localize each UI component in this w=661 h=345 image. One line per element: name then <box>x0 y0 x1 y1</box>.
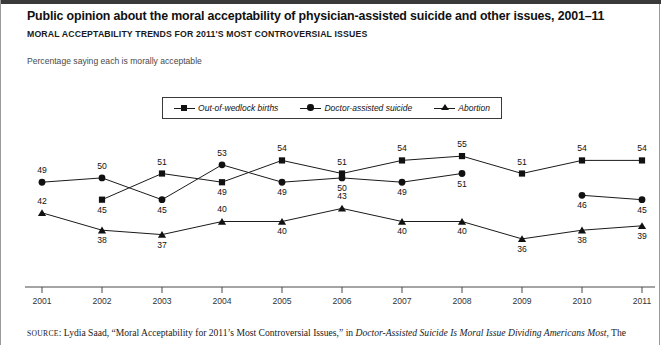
data-point-label: 45 <box>637 205 647 215</box>
data-point-label: 54 <box>577 143 587 153</box>
legend-label: Out-of-wedlock births <box>198 103 278 113</box>
data-point-label: 46 <box>577 200 587 210</box>
data-point-label: 50 <box>97 161 107 171</box>
x-axis-tick-label: 2003 <box>152 296 171 306</box>
data-point-label: 54 <box>277 143 287 153</box>
data-point-label: 39 <box>637 231 647 241</box>
x-axis-tick-label: 2001 <box>32 296 51 306</box>
data-point-label: 37 <box>157 240 167 250</box>
legend-item-abortion[interactable]: Abortion <box>434 103 490 113</box>
chart-blurb: Percentage saying each is morally accept… <box>27 56 637 66</box>
page-title: Public opinion about the moral acceptabi… <box>27 9 637 23</box>
source-text-before: Lydia Saad, “Moral Acceptability for 201… <box>64 327 356 338</box>
data-point-label: 51 <box>517 157 527 167</box>
chart-plot-area: 4551495451545551545449504553495049514645… <box>1 0 661 345</box>
data-point-label: 49 <box>397 187 407 197</box>
source-text-after: , The <box>606 327 626 338</box>
data-point-label: 36 <box>517 244 527 254</box>
data-point-label: 40 <box>457 226 467 236</box>
data-point-label: 45 <box>97 205 107 215</box>
top-rule <box>1 0 661 4</box>
x-axis-tick-label: 2006 <box>332 296 351 306</box>
series-out-of-wedlock-births <box>99 153 645 203</box>
data-point-label: 49 <box>217 187 227 197</box>
data-point-label: 49 <box>37 165 47 175</box>
data-point-label: 54 <box>637 143 647 153</box>
legend-item-doctor-assisted-suicide[interactable]: Doctor-assisted suicide <box>300 103 412 113</box>
chart-canvas <box>1 0 661 345</box>
source-italic-title: Doctor-Assisted Suicide Is Moral Issue D… <box>356 327 607 338</box>
data-point-label: 51 <box>157 157 167 167</box>
x-axis-tick-label: 2010 <box>572 296 591 306</box>
legend-label: Abortion <box>458 103 490 113</box>
data-point-label: 38 <box>577 235 587 245</box>
legend-item-out-of-wedlock-births[interactable]: Out-of-wedlock births <box>174 103 278 113</box>
legend-label: Doctor-assisted suicide <box>324 103 412 113</box>
data-point-label: 50 <box>337 183 347 193</box>
data-point-label: 51 <box>337 157 347 167</box>
x-axis-tick-label: 2005 <box>272 296 291 306</box>
data-point-label: 49 <box>277 187 287 197</box>
series-abortion <box>38 205 646 242</box>
chart-subtitle: MORAL ACCEPTABILITY TRENDS FOR 2011'S MO… <box>27 29 607 39</box>
data-point-label: 40 <box>277 226 287 236</box>
series-doctor-assisted-suicide <box>39 161 646 203</box>
x-axis-tick-label: 2009 <box>512 296 531 306</box>
x-axis-tick-label: 2011 <box>633 296 651 306</box>
data-point-label: 42 <box>37 196 47 206</box>
x-axis-tick-label: 2007 <box>392 296 411 306</box>
data-point-label: 53 <box>217 148 227 158</box>
x-axis <box>25 287 655 293</box>
x-axis-tick-label: 2004 <box>212 296 231 306</box>
data-point-label: 40 <box>217 204 227 214</box>
data-point-label: 51 <box>457 179 467 189</box>
data-point-label: 38 <box>97 235 107 245</box>
legend-marker-circle-icon <box>300 104 321 113</box>
data-point-label: 43 <box>337 191 347 201</box>
data-point-label: 40 <box>397 226 407 236</box>
x-axis-tick-label: 2008 <box>452 296 471 306</box>
source-label: SOURCE <box>27 329 59 338</box>
source-note: SOURCE: Lydia Saad, “Moral Acceptability… <box>27 327 651 338</box>
data-point-label: 55 <box>457 139 467 149</box>
x-axis-tick-label: 2002 <box>92 296 111 306</box>
legend-marker-square-icon <box>174 104 195 113</box>
legend-marker-triangle-icon <box>434 104 455 113</box>
data-point-label: 45 <box>157 205 167 215</box>
chart-legend: Out-of-wedlock births Doctor-assisted su… <box>162 97 502 119</box>
data-point-label: 54 <box>397 143 407 153</box>
